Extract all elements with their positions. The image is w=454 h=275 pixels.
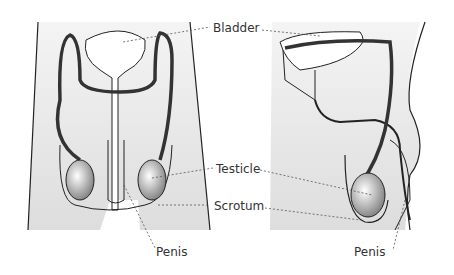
label-bladder: Bladder [213, 22, 259, 34]
label-testicle: Testicle [216, 163, 260, 175]
side-view [270, 22, 425, 230]
testicle-left [66, 160, 94, 200]
label-penis-side: Penis [354, 246, 385, 258]
label-scrotum: Scrotum [214, 200, 264, 212]
label-penis-front: Penis [156, 246, 187, 258]
testicle-right [138, 160, 166, 200]
testicle-side [351, 173, 385, 217]
anatomy-diagram [0, 0, 454, 275]
front-view [28, 22, 210, 230]
